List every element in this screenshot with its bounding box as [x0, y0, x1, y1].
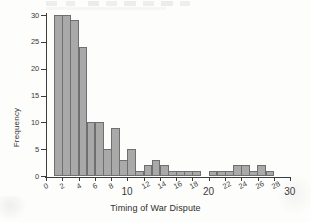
- x-tick-mark: [290, 177, 291, 181]
- scan-artifact-top: [44, 1, 190, 6]
- y-axis-title-wrap: Frequency: [8, 60, 22, 140]
- x-tick-mark: [209, 177, 210, 181]
- x-tick-label: 2: [58, 181, 66, 191]
- histogram-bars: [46, 15, 290, 176]
- x-tick-label: 26: [254, 179, 266, 191]
- x-tick-label: 12: [140, 179, 152, 191]
- x-tick-label: 10: [122, 186, 133, 197]
- x-tick-label: 6: [91, 181, 99, 191]
- x-tick-label: 24: [237, 179, 249, 191]
- histogram-bar: [266, 171, 275, 176]
- x-tick-mark: [95, 177, 96, 181]
- x-tick-mark: [111, 177, 112, 181]
- y-axis-title: Frequency: [12, 68, 21, 188]
- scan-artifact-top-secondary: [46, 7, 166, 10]
- x-tick-mark: [62, 177, 63, 181]
- histogram-figure: 051015202530 024681012141618202224262830…: [0, 0, 311, 222]
- x-tick-mark: [46, 177, 47, 181]
- x-tick-label: 20: [203, 186, 214, 197]
- x-tick-label: 14: [156, 179, 168, 191]
- y-tick-label: 30: [17, 11, 39, 20]
- x-tick-label: 22: [221, 179, 233, 191]
- y-tick-label: 25: [17, 37, 39, 46]
- x-axis-title: Timing of War Dispute: [0, 203, 311, 213]
- x-tick-label: 30: [284, 186, 295, 197]
- x-tick-label: 4: [75, 181, 83, 191]
- x-tick-label: 8: [107, 181, 115, 191]
- x-axis-line: [45, 177, 291, 178]
- x-tick-label: 18: [188, 179, 200, 191]
- x-tick-label: 0: [42, 181, 50, 191]
- x-tick-label: 16: [172, 179, 184, 191]
- histogram-bar: [192, 171, 201, 176]
- x-tick-mark: [127, 177, 128, 181]
